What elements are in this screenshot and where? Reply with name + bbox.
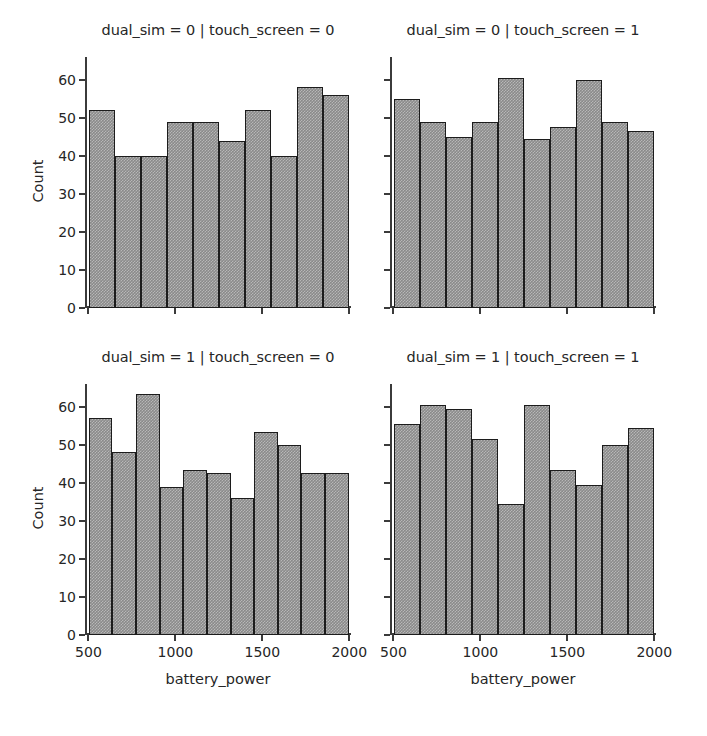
y-axis-tick [384, 634, 390, 636]
histogram-bar [394, 424, 420, 635]
x-axis-tick [479, 635, 481, 641]
y-axis-tick [384, 596, 390, 598]
x-axis-tick-label: 500 [380, 644, 407, 660]
histogram-bar [472, 439, 498, 635]
y-axis-tick [384, 444, 390, 446]
plot-area: 500100015002000 [390, 384, 656, 635]
facet-title: dual_sim = 1 | touch_screen = 1 [390, 349, 656, 365]
x-axis-tick-label: 2000 [636, 644, 672, 660]
x-axis-tick [392, 635, 394, 641]
y-axis-tick [384, 558, 390, 560]
y-axis-tick [384, 406, 390, 408]
y-axis-spine [390, 384, 392, 635]
histogram-bar [628, 428, 654, 635]
histogram-bar [576, 485, 602, 635]
histogram-bar [446, 409, 472, 635]
histogram-facet-grid: dual_sim = 0 | touch_screen = 0010203040… [0, 0, 707, 736]
x-axis-tick [653, 635, 655, 641]
facet-panel-1-1: dual_sim = 1 | touch_screen = 1500100015… [0, 0, 707, 736]
histogram-bar [602, 445, 628, 635]
histogram-bar [498, 504, 524, 635]
y-axis-tick [384, 520, 390, 522]
histogram-bar [524, 405, 550, 635]
y-axis-tick [384, 482, 390, 484]
x-axis-label: battery_power [390, 671, 656, 687]
x-axis-tick-label: 1000 [463, 644, 499, 660]
x-axis-tick [566, 635, 568, 641]
x-axis-tick-label: 1500 [550, 644, 586, 660]
histogram-bar [550, 470, 576, 635]
histogram-bar [420, 405, 446, 635]
